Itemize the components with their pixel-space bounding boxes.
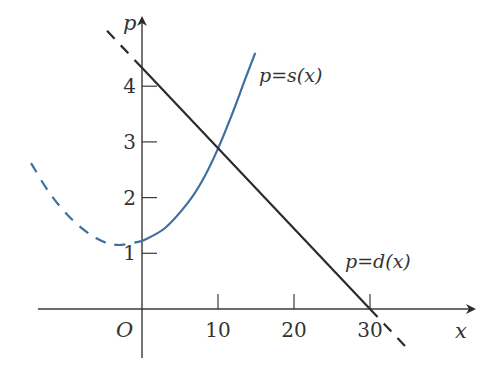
supply-demand-chart: 102030 1234 x p O p=s(x) p=d(x) xyxy=(0,0,502,380)
s-curve-label: p=s(x) xyxy=(259,64,322,86)
origin-label: O xyxy=(116,318,133,342)
y-tick-label: 2 xyxy=(123,186,136,210)
x-tick-label: 20 xyxy=(281,318,306,342)
y-tick-label: 3 xyxy=(123,130,136,154)
series-d xyxy=(107,31,405,346)
x-tick-label: 10 xyxy=(205,318,230,342)
d-line-solid xyxy=(142,68,370,309)
y-axis-label: p xyxy=(123,11,136,35)
x-ticks: 102030 xyxy=(205,294,382,342)
y-tick-label: 4 xyxy=(123,74,136,98)
x-tick-label: 30 xyxy=(357,318,382,342)
d-line-dashed xyxy=(107,31,142,68)
s-curve-solid xyxy=(142,53,255,241)
d-line-label: p=d(x) xyxy=(345,250,411,272)
series-s xyxy=(31,53,255,245)
x-axis-label: x xyxy=(455,319,467,343)
